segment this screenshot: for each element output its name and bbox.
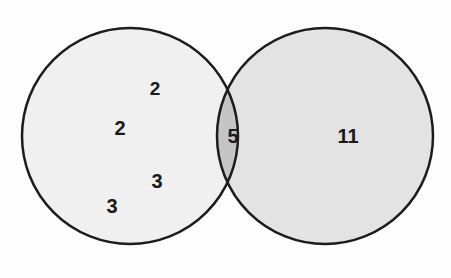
venn-diagram-canvas: 2233511 <box>0 0 451 278</box>
region-count-left-only-3: 3 <box>106 195 117 217</box>
region-count-left-only-0: 2 <box>150 78 161 99</box>
region-count-intersection-4: 5 <box>227 125 238 147</box>
region-count-right-only-5: 11 <box>337 125 358 147</box>
region-count-left-only-1: 2 <box>114 117 125 139</box>
region-count-left-only-2: 3 <box>151 170 162 192</box>
venn-diagram-svg: 2233511 <box>0 0 451 278</box>
